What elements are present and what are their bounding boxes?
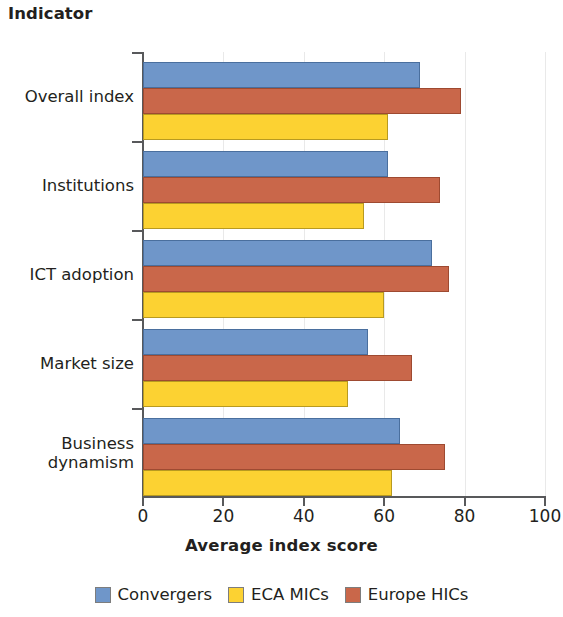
x-axis-tick bbox=[464, 496, 466, 506]
y-axis-category-tick bbox=[132, 408, 143, 410]
category-label: ICT adoption bbox=[2, 265, 134, 284]
bar-eca-mics bbox=[143, 114, 388, 140]
bar-convergers bbox=[143, 329, 368, 355]
legend-label: Europe HICs bbox=[368, 585, 469, 604]
x-axis-title: Average index score bbox=[0, 536, 563, 555]
bar-europe-hics bbox=[143, 355, 412, 381]
bar-europe-hics bbox=[143, 444, 445, 470]
x-axis-tick bbox=[142, 496, 144, 506]
bar-chart: Indicator Overall indexInstitutionsICT a… bbox=[0, 0, 563, 617]
x-gridline bbox=[545, 52, 546, 497]
legend-label: ECA MICs bbox=[251, 585, 329, 604]
category-label: Businessdynamism bbox=[2, 434, 134, 472]
category-label: Overall index bbox=[2, 87, 134, 106]
bar-europe-hics bbox=[143, 177, 440, 203]
legend-swatch-icon bbox=[228, 587, 244, 603]
category-label: Institutions bbox=[2, 176, 134, 195]
x-axis-tick bbox=[222, 496, 224, 506]
x-axis-tick-label: 60 bbox=[354, 506, 414, 526]
x-axis-tick-label: 20 bbox=[193, 506, 253, 526]
x-axis-tick-label: 40 bbox=[274, 506, 334, 526]
category-labels: Overall indexInstitutionsICT adoptionMar… bbox=[0, 0, 134, 560]
legend-swatch-icon bbox=[95, 587, 111, 603]
bar-convergers bbox=[143, 151, 388, 177]
bar-eca-mics bbox=[143, 470, 392, 496]
legend-item-convergers[interactable]: Convergers bbox=[95, 585, 213, 604]
x-axis-tick bbox=[544, 496, 546, 506]
legend-swatch-icon bbox=[345, 587, 361, 603]
x-axis-tick-label: 80 bbox=[435, 506, 495, 526]
category-label: Market size bbox=[2, 354, 134, 373]
bar-eca-mics bbox=[143, 381, 348, 407]
y-axis-category-tick bbox=[132, 230, 143, 232]
x-axis-tick-label: 100 bbox=[515, 506, 563, 526]
bar-convergers bbox=[143, 418, 400, 444]
y-axis-category-tick bbox=[132, 141, 143, 143]
bar-group bbox=[143, 52, 545, 141]
legend-label: Convergers bbox=[118, 585, 213, 604]
plot-area bbox=[143, 52, 545, 497]
x-axis-tick bbox=[383, 496, 385, 506]
legend-item-europe-hics[interactable]: Europe HICs bbox=[345, 585, 469, 604]
bar-europe-hics bbox=[143, 266, 449, 292]
legend-item-eca-mics[interactable]: ECA MICs bbox=[228, 585, 329, 604]
y-axis-category-tick bbox=[132, 319, 143, 321]
x-axis-tick-label: 0 bbox=[113, 506, 173, 526]
bar-convergers bbox=[143, 240, 432, 266]
bar-group bbox=[143, 230, 545, 319]
bar-convergers bbox=[143, 62, 420, 88]
bar-eca-mics bbox=[143, 203, 364, 229]
bar-eca-mics bbox=[143, 292, 384, 318]
bar-group bbox=[143, 319, 545, 408]
x-axis-tick bbox=[303, 496, 305, 506]
y-axis-top-tick bbox=[132, 52, 143, 54]
bar-group bbox=[143, 141, 545, 230]
chart-legend: ConvergersECA MICsEurope HICs bbox=[0, 585, 563, 604]
bar-europe-hics bbox=[143, 88, 461, 114]
bar-group bbox=[143, 408, 545, 497]
